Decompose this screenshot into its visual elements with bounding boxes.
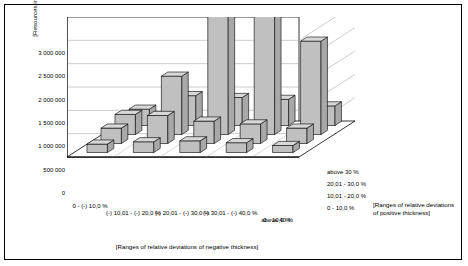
y-tick-1: 500 000	[25, 167, 65, 173]
z-label-0: 0 - 10,0 %	[327, 205, 354, 211]
chart-svg	[67, 17, 355, 193]
x-cat-1: (-) 10,01 - (-) 20,0 %	[106, 210, 158, 217]
y-tick-3: 1 500 000	[25, 120, 65, 126]
z-axis-title: [Ranges of relative deviations of positi…	[373, 201, 459, 217]
y-axis-title: [Resources in a thousands ton]	[31, 0, 38, 49]
y-tick-2: 1 000 000	[25, 143, 65, 149]
chart-frame: 0 500 000 1 000 000 1 500 000 2 000 000 …	[4, 4, 462, 260]
y-tick-4: 2 000 000	[25, 97, 65, 103]
x-axis-title: [Ranges of relative deviations of negati…	[67, 243, 307, 250]
x-cat-2: (-) 20,01 - (-) 30,0 %	[155, 210, 207, 217]
x-cat-3: (-) 30,01 - (-) 40,0 %	[203, 210, 255, 217]
y-tick-0: 0	[25, 190, 65, 196]
y-tick-6: 3 000 000	[25, 50, 65, 56]
x-cat-0: 0 - (-) 10,0 %	[67, 203, 113, 210]
x-cat-4-label: above 40 %	[252, 217, 302, 223]
z-label-1: 10,01 - 20,0 %	[327, 193, 366, 199]
z-label-3: above 30 %	[327, 169, 359, 175]
chart-plot-area	[67, 17, 355, 193]
z-label-2: 20,01 - 30,0 %	[327, 181, 366, 187]
y-tick-5: 2 500 000	[25, 73, 65, 79]
